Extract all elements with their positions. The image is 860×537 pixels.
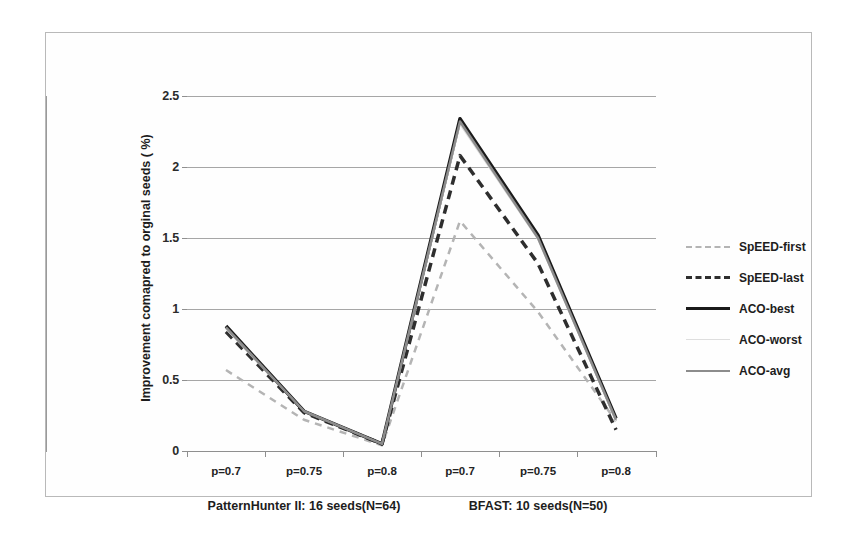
legend-line-icon-speed-last <box>686 272 730 284</box>
series-line-speed-last <box>226 156 616 444</box>
legend-line-icon-aco-worst <box>686 334 730 346</box>
y-axis-tick-labels: 2.5 2 1.5 1 0.5 0 <box>134 33 179 533</box>
x-tick-mark-0 <box>187 451 188 457</box>
legend-label-speed-first: SpEED-first <box>739 240 806 254</box>
x-tick-label-ph-p075: p=0.75 <box>286 465 322 477</box>
y-tick-label-2: 2 <box>172 160 179 174</box>
x-tick-mark-3 <box>421 451 422 457</box>
plot-area <box>187 96 656 451</box>
y-axis-line <box>46 96 47 452</box>
legend-item-aco-best: ACO-best <box>686 293 846 324</box>
legend-label-aco-best: ACO-best <box>739 302 794 316</box>
series-line-aco-avg <box>226 122 616 444</box>
x-tick-label-ph-p08: p=0.8 <box>367 465 397 477</box>
legend-item-aco-worst: ACO-worst <box>686 324 846 355</box>
x-axis-line <box>187 451 657 452</box>
legend-label-aco-avg: ACO-avg <box>739 364 790 378</box>
x-tick-mark-4 <box>499 451 500 457</box>
legend-line-icon-aco-best <box>686 303 730 315</box>
y-tick-label-1: 1 <box>172 302 179 316</box>
y-tick-label-0-5: 0.5 <box>162 373 179 387</box>
x-tick-mark-6 <box>656 451 657 457</box>
x-tick-label-bf-p07: p=0.7 <box>445 465 475 477</box>
y-tick-label-2-5: 2.5 <box>162 89 179 103</box>
legend-item-speed-last: SpEED-last <box>686 262 846 293</box>
x-tick-mark-5 <box>577 451 578 457</box>
y-axis-title-wrapper: Improvement comapred to orginal seeds ( … <box>122 33 123 34</box>
y-tick-label-0: 0 <box>172 444 179 458</box>
x-tick-label-bf-p075: p=0.75 <box>520 465 556 477</box>
legend-line-icon-aco-avg <box>686 365 730 377</box>
chart-figure-frame: Improvement comapred to orginal seeds ( … <box>45 32 812 497</box>
group-label-patternhunter: PatternHunter II: 16 seeds(N=64) <box>208 499 401 513</box>
legend-line-icon-speed-first <box>686 241 730 253</box>
series-line-speed-first <box>226 221 616 445</box>
legend-item-aco-avg: ACO-avg <box>686 355 846 386</box>
x-tick-label-bf-p08: p=0.8 <box>601 465 631 477</box>
legend-label-speed-last: SpEED-last <box>739 271 804 285</box>
series-plot <box>187 96 656 451</box>
legend-label-aco-worst: ACO-worst <box>739 333 802 347</box>
x-tick-mark-1 <box>265 451 266 457</box>
group-label-bfast: BFAST: 10 seeds(N=50) <box>469 499 608 513</box>
y-tick-label-1-5: 1.5 <box>162 231 179 245</box>
chart-legend: SpEED-first SpEED-last ACO-best ACO-wors… <box>686 231 846 386</box>
x-tick-mark-2 <box>343 451 344 457</box>
x-tick-label-ph-p07: p=0.7 <box>211 465 241 477</box>
legend-item-speed-first: SpEED-first <box>686 231 846 262</box>
